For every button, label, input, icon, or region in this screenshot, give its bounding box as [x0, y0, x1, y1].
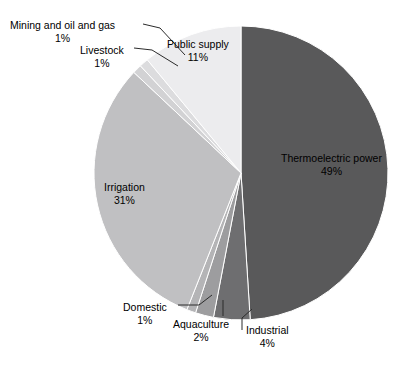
slice-label-livestock: Livestock 1%	[80, 44, 124, 69]
pie-chart: Mining and oil and gas 1% Livestock 1% P…	[0, 0, 408, 365]
slice-label-thermoelectric-power-name: Thermoelectric power	[281, 152, 382, 164]
slice-label-industrial-percent: 4%	[246, 337, 289, 350]
slice-label-public-supply: Public supply 11%	[167, 38, 229, 63]
slice-label-livestock-percent: 1%	[80, 57, 124, 70]
slice-label-mining-name: Mining and oil and gas	[10, 19, 115, 31]
slice-label-aquaculture-name: Aquaculture	[173, 318, 229, 330]
slice-label-domestic: Domestic 1%	[123, 301, 167, 326]
slice-label-irrigation-name: Irrigation	[104, 181, 145, 193]
slice-label-industrial-name: Industrial	[246, 324, 289, 336]
slice-label-thermoelectric-power-percent: 49%	[281, 165, 382, 178]
slice-label-aquaculture: Aquaculture 2%	[173, 318, 229, 343]
slice-label-aquaculture-percent: 2%	[173, 331, 229, 344]
slice-label-public-supply-percent: 11%	[167, 51, 229, 64]
slice-label-industrial: Industrial 4%	[246, 324, 289, 349]
slice-label-domestic-percent: 1%	[123, 314, 167, 327]
slice-label-domestic-name: Domestic	[123, 301, 167, 313]
slice-label-irrigation: Irrigation 31%	[104, 181, 145, 206]
slice-label-livestock-name: Livestock	[80, 44, 124, 56]
slice-label-mining: Mining and oil and gas 1%	[10, 19, 115, 44]
slice-label-public-supply-name: Public supply	[167, 38, 229, 50]
slice-label-thermoelectric-power: Thermoelectric power 49%	[281, 152, 382, 177]
slice-label-irrigation-percent: 31%	[104, 194, 145, 207]
slice-label-mining-percent: 1%	[10, 32, 115, 45]
